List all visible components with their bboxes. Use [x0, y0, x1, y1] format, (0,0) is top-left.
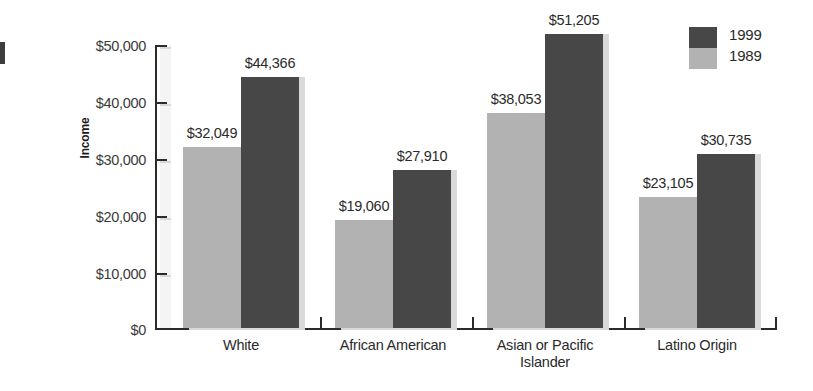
bar-1989-latino-origin [639, 197, 697, 328]
bar-1999-asian-or-pacific-islander [545, 34, 603, 328]
x-category-label-asian-or-pacific-islander: Asian or Pacific Islander [482, 337, 608, 371]
legend: 1999 1989 [689, 26, 809, 74]
bar-1999-african-american [393, 170, 451, 328]
x-category-label-latino-origin: Latino Origin [634, 337, 760, 354]
legend-label-1999: 1999 [729, 26, 762, 43]
bar-1989-african-american [335, 220, 393, 328]
legend-swatch-group [689, 27, 717, 69]
x-category-label-african-american: African American [330, 337, 456, 354]
x-category-label-line: Asian or Pacific [482, 337, 608, 354]
bar-value-1999-latino-origin: $30,735 [680, 132, 772, 148]
bar-value-1999-white: $44,366 [224, 55, 316, 71]
bar-value-1999-african-american: $27,910 [376, 148, 468, 164]
x-category-label-line: Islander [482, 354, 608, 371]
bar-1999-latino-origin [697, 154, 755, 328]
legend-swatch-1989 [689, 48, 717, 69]
x-category-label-white: White [195, 337, 287, 354]
bar-1999-white [241, 77, 299, 328]
income-bar-chart-figure: Income $50,000 $40,000 $30,000 $20,000 $… [0, 0, 813, 391]
legend-swatch-1999 [689, 27, 717, 48]
bar-1989-asian-or-pacific-islander [487, 113, 545, 328]
bar-1989-white [183, 147, 241, 328]
legend-label-1989: 1989 [729, 47, 762, 64]
bar-value-1999-asian-or-pacific-islander: $51,205 [528, 12, 620, 28]
